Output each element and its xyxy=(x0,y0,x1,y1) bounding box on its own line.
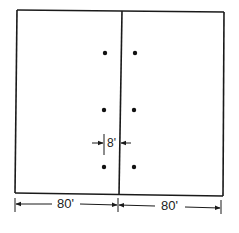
point-marker xyxy=(102,108,106,112)
left-width-label: 80' xyxy=(55,198,76,210)
point-marker xyxy=(132,108,136,112)
right-width-label: 80' xyxy=(159,200,180,212)
point-marker xyxy=(102,165,106,169)
spacing-label: 8' xyxy=(105,137,118,149)
center-divider xyxy=(119,11,122,195)
diagram-drawing xyxy=(0,0,239,233)
point-marker xyxy=(103,51,107,55)
point-marker xyxy=(133,51,137,55)
width-dimensions xyxy=(15,198,221,214)
diagram: 8' 80' 80' xyxy=(0,0,239,233)
point-marker xyxy=(132,165,136,169)
